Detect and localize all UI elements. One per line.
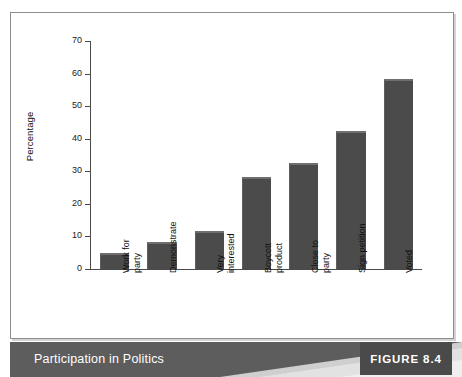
caption-title: Participation in Politics <box>34 352 164 366</box>
y-axis-tick-label: 10 <box>56 231 82 240</box>
bar[interactable] <box>384 79 413 269</box>
bar-slot <box>327 41 374 269</box>
y-axis-tick-mark <box>85 74 90 75</box>
figure-number-badge: FIGURE 8.4 <box>360 342 452 375</box>
y-axis-tick-label: 50 <box>56 101 82 110</box>
y-axis-tick-label: 60 <box>56 69 82 78</box>
y-axis-tick: 10 <box>51 236 90 237</box>
figure-container: Percentage 010203040506070 Work for part… <box>0 0 462 377</box>
y-axis-tick-mark <box>85 139 90 140</box>
y-axis-tick-mark <box>85 41 90 42</box>
bar-slot <box>375 41 422 269</box>
x-axis-label: Very interested <box>215 233 236 273</box>
y-axis-tick-label: 70 <box>56 36 82 45</box>
y-axis-tick-mark <box>85 236 90 237</box>
figure-number-label: FIGURE 8.4 <box>360 353 452 365</box>
y-axis-tick-mark <box>85 269 90 270</box>
y-axis-tick: 50 <box>51 106 90 107</box>
bars-layer <box>91 41 422 269</box>
y-axis-tick-label: 0 <box>56 264 82 273</box>
x-axis-label: Close to party <box>310 240 331 273</box>
y-axis-tick-label: 20 <box>56 199 82 208</box>
bar-slot <box>233 41 280 269</box>
y-axis-tick: 20 <box>51 204 90 205</box>
y-axis-tick: 0 <box>51 269 90 270</box>
y-axis-tick: 70 <box>51 41 90 42</box>
x-axis-label: Boycott product <box>263 243 284 273</box>
y-axis-tick-label: 30 <box>56 166 82 175</box>
bar-slot <box>91 41 138 269</box>
x-axis-label: Voted <box>404 250 415 273</box>
x-axis-label: Sign petition <box>357 223 368 273</box>
y-axis-tick: 30 <box>51 171 90 172</box>
y-axis-tick-mark <box>85 171 90 172</box>
x-axis-labels: Work for partyDemonstrateVery interested… <box>91 271 422 341</box>
x-axis-label: Demonstrate <box>168 221 179 273</box>
plot-area: Percentage 010203040506070 Work for part… <box>11 13 455 340</box>
y-axis-tick: 40 <box>51 139 90 140</box>
chart-frame: Percentage 010203040506070 Work for part… <box>10 12 454 339</box>
caption-band: Participation in Politics FIGURE 8.4 <box>10 342 462 377</box>
y-axis-title: Percentage <box>24 97 35 177</box>
x-axis-label: Work for party <box>121 239 142 273</box>
bar-slot <box>280 41 327 269</box>
y-axis-tick-mark <box>85 106 90 107</box>
y-axis-tick: 60 <box>51 74 90 75</box>
y-axis-tick-label: 40 <box>56 134 82 143</box>
y-axis-tick-mark <box>85 204 90 205</box>
